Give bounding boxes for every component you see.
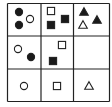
cell-background	[8, 4, 42, 37]
filled-circle-icon	[15, 21, 22, 28]
hollow-square-icon	[58, 41, 65, 48]
empty-answer-cell	[74, 36, 110, 69]
filled-circle-icon	[15, 8, 22, 15]
grid-cell	[41, 4, 74, 37]
grid-cell	[8, 36, 42, 69]
grid-cell	[41, 36, 74, 69]
cell-background	[74, 36, 110, 69]
grid-cell	[41, 69, 74, 102]
filled-square-icon	[49, 57, 56, 64]
puzzle-grid	[0, 0, 112, 107]
hollow-square-icon	[47, 7, 54, 14]
grid-cell	[8, 69, 42, 102]
hollow-circle-icon	[20, 82, 27, 89]
cell-background	[74, 4, 110, 37]
filled-square-icon	[47, 21, 54, 28]
grid-cell	[74, 4, 110, 37]
hollow-square-icon	[53, 82, 60, 89]
hollow-circle-icon	[26, 15, 33, 22]
grid-cell	[74, 69, 110, 102]
filled-circle-icon	[27, 53, 34, 60]
cell-background	[8, 36, 42, 69]
hollow-circle-icon	[14, 45, 21, 52]
grid-cell	[8, 4, 42, 37]
cell-background	[41, 36, 74, 69]
filled-square-icon	[61, 15, 68, 22]
